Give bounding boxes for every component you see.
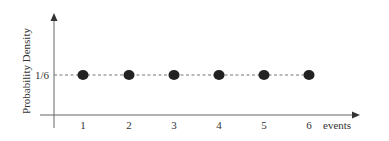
marker-3 — [169, 70, 180, 80]
x-tick-label-5: 5 — [261, 119, 267, 131]
y-tick-label: 1/6 — [35, 69, 50, 81]
marker-1 — [78, 70, 89, 80]
y-axis-arrow-icon — [51, 13, 58, 21]
marker-5 — [259, 70, 270, 80]
x-tick-label-4: 4 — [216, 119, 222, 131]
x-tick-label-2: 2 — [126, 119, 132, 131]
x-axis-label: events — [323, 119, 351, 131]
x-tick-label-3: 3 — [171, 119, 177, 131]
x-tick-label-6: 6 — [306, 119, 312, 131]
data-markers — [78, 70, 315, 80]
x-axis-arrow-icon — [352, 112, 360, 119]
x-tick-label-1: 1 — [80, 119, 86, 131]
marker-6 — [304, 70, 315, 80]
marker-2 — [124, 70, 135, 80]
y-axis-label: Probability Density — [20, 28, 32, 114]
marker-4 — [214, 70, 225, 80]
uniform-distribution-chart: 1/6 Probability Density 1 2 3 4 5 6 even… — [0, 0, 389, 141]
